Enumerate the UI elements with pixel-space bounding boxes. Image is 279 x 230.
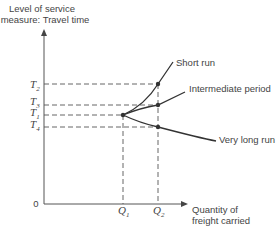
very-long-run-label: Very long run bbox=[219, 134, 275, 145]
y-axis-label-line1: Level of service bbox=[9, 3, 75, 14]
svg-text:T2: T2 bbox=[30, 78, 40, 93]
origin-label: 0 bbox=[33, 198, 38, 209]
x-axis-label-line1: Quantity of bbox=[192, 204, 238, 215]
short-run-label: Short run bbox=[176, 57, 215, 68]
x-tick-labels: Q1 Q2 bbox=[118, 204, 165, 219]
intermediate-period-curve bbox=[123, 92, 185, 115]
very-long-run-curve bbox=[123, 115, 216, 141]
svg-text:Q1: Q1 bbox=[118, 204, 129, 219]
guide-lines bbox=[44, 84, 158, 204]
chart: Level of service measure: Travel time 0 … bbox=[0, 0, 279, 230]
svg-text:Q2: Q2 bbox=[153, 204, 165, 219]
y-tick-labels: T2 T3 T1 T4 bbox=[30, 78, 40, 133]
y-axis-label-line2: measure: Travel time bbox=[1, 14, 90, 25]
x-axis-label-line2: freight carried bbox=[192, 215, 250, 226]
intermediate-period-label: Intermediate period bbox=[189, 83, 271, 94]
